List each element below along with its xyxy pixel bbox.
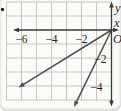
x-tick-label: −6 <box>15 33 27 45</box>
y-tick-label: −2 <box>94 53 106 65</box>
arrowhead <box>109 101 114 107</box>
arrowhead <box>74 101 79 107</box>
origin-label: O <box>113 32 121 46</box>
y-axis-label: y <box>113 1 121 15</box>
x-axis-label: x <box>113 16 120 30</box>
coordinate-plane-svg: −6−4−2−2−4 y x O <box>0 0 121 111</box>
rays <box>19 30 112 107</box>
x-tick-label: −2 <box>75 33 87 45</box>
x-tick-label: −4 <box>45 33 57 45</box>
y-tick-label: −4 <box>90 81 102 93</box>
figure-coordinate-plane: −6−4−2−2−4 y x O <box>0 0 121 111</box>
